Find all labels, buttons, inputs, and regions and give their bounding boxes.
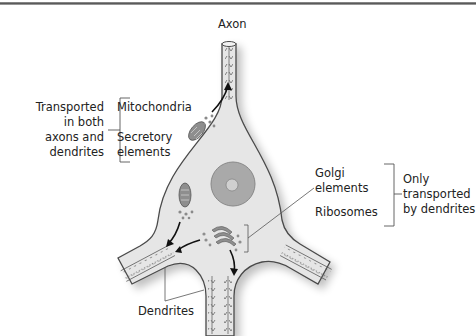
golgi-line1: Golgi bbox=[315, 166, 368, 181]
ribosomes-label: Ribosomes bbox=[315, 205, 378, 220]
axon-label: Axon bbox=[218, 17, 247, 32]
nucleus bbox=[211, 162, 255, 206]
secretory-line1: Secretory bbox=[117, 130, 172, 145]
right-group-bracket bbox=[384, 164, 402, 226]
right-group-line2: transported bbox=[403, 187, 475, 202]
dendrites-label: Dendrites bbox=[138, 304, 194, 319]
left-group-line1: Transported bbox=[0, 100, 104, 115]
right-group-label: Only transported by dendrites bbox=[403, 172, 475, 217]
mitochondria-label: Mitochondria bbox=[117, 100, 192, 115]
left-group-line3: axons and bbox=[0, 130, 104, 145]
neuron-illustration bbox=[0, 0, 476, 336]
right-group-line3: by dendrites bbox=[403, 202, 475, 217]
golgi-line2: elements bbox=[315, 181, 368, 196]
golgi-elements-label: Golgi elements bbox=[315, 166, 368, 196]
secretory-line2: elements bbox=[117, 145, 172, 160]
secretory-elements-label: Secretory elements bbox=[117, 130, 172, 160]
left-group-label: Transported in both axons and dendrites bbox=[0, 100, 104, 160]
right-group-line1: Only bbox=[403, 172, 475, 187]
left-group-line2: in both bbox=[0, 115, 104, 130]
left-group-line4: dendrites bbox=[0, 145, 104, 160]
